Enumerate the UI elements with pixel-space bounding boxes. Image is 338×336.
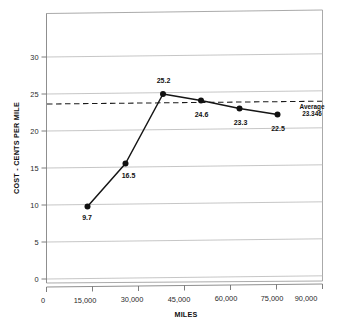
y-tick-label: 10 [30,201,38,210]
data-point-label: 16.5 [122,172,136,179]
average-annotation: Average 23.346 [300,103,325,118]
x-tick-label: 30,000 [121,295,144,304]
data-point-label: 9.7 [82,214,92,221]
data-point-label: 24.6 [195,111,209,118]
average-annotation-value: 23.346 [302,110,322,117]
data-point-label: 23.3 [234,119,248,126]
x-tick-label: 15,000 [74,296,97,305]
y-tick-label: 0 [34,275,38,284]
data-point-marker [198,98,204,104]
y-tick-label: 25 [30,90,38,99]
y-tick-label: 15 [30,164,38,173]
cost-per-mile-line-chart: 30 25 20 15 10 5 0 COST - CENTS PER MILE [0,0,338,336]
y-tick-label: 30 [30,53,38,62]
data-point-marker [237,106,243,112]
data-point-marker [123,161,129,167]
data-point-label: 25.2 [157,77,171,84]
y-tick-label: 20 [30,127,38,136]
x-tick-label: 60,000 [215,294,238,303]
data-point-marker [275,112,281,118]
data-point-marker [85,204,91,210]
data-point-label: 22.5 [271,125,285,132]
y-axis-title: COST - CENTS PER MILE [12,102,21,194]
x-tick-label: 45,000 [168,295,191,304]
chart-canvas: 30 25 20 15 10 5 0 COST - CENTS PER MILE [0,0,338,336]
x-tick-label: 90,000 [295,294,318,303]
x-tick-label: 0 [41,296,45,305]
x-tick-label: 75,000 [261,294,284,303]
y-tick-label: 5 [34,238,38,247]
x-axis-title: MILES [174,310,197,319]
data-point-marker [160,91,166,97]
